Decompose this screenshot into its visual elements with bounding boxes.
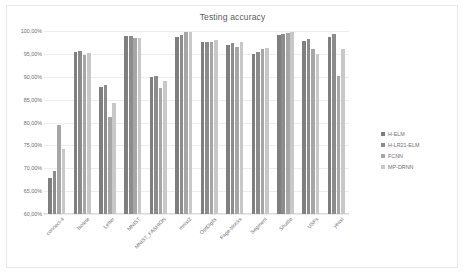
- bar: [341, 49, 345, 214]
- x-axis-category-label: Isolete: [75, 216, 90, 231]
- legend-item[interactable]: MP-DRNN: [381, 161, 457, 172]
- chart-title: Testing accuracy: [0, 12, 465, 22]
- bar-groups: [44, 31, 349, 214]
- bar-group: [146, 31, 171, 214]
- bar: [302, 41, 306, 214]
- bar-group: [69, 31, 94, 214]
- bar-group: [120, 31, 145, 214]
- bar: [231, 43, 235, 214]
- bar-group: [273, 31, 298, 214]
- bar: [62, 149, 66, 214]
- bar: [189, 32, 193, 214]
- bar: [87, 53, 91, 214]
- bar: [133, 38, 137, 214]
- legend: H-ELMH-LR21-ELMFCNNMP-DRNN: [381, 128, 457, 172]
- bar: [53, 171, 57, 214]
- bar: [57, 125, 61, 214]
- x-axis-category-label: Segment: [249, 216, 268, 235]
- bar: [281, 34, 285, 214]
- y-axis-tick-label: 65,00%: [6, 188, 42, 194]
- x-axis-category-label: yeast: [332, 216, 345, 229]
- bar: [316, 54, 320, 214]
- plot-area: [44, 31, 349, 214]
- bar: [311, 49, 315, 214]
- legend-swatch-icon: [381, 154, 385, 158]
- bar: [307, 39, 311, 214]
- x-axis-category-label: mnist2: [177, 216, 192, 231]
- bar: [290, 32, 294, 214]
- bar: [265, 48, 269, 214]
- x-axis-category-label: Shuttle: [278, 216, 294, 232]
- bar: [104, 85, 108, 214]
- bar: [74, 52, 78, 214]
- bar: [337, 76, 341, 214]
- bar: [256, 52, 260, 214]
- bar-group: [222, 31, 247, 214]
- y-axis-tick-labels: 100,00%95,00%90,00%85,00%80,00%75,00%70,…: [6, 31, 42, 214]
- bar: [78, 51, 82, 214]
- bar: [205, 42, 209, 214]
- bar: [83, 55, 87, 214]
- y-axis-tick-label: 80,00%: [6, 120, 42, 126]
- bar: [210, 42, 214, 214]
- bar-group: [298, 31, 323, 214]
- legend-label: MP-DRNN: [388, 164, 413, 170]
- bar: [180, 35, 184, 214]
- bar: [175, 37, 179, 214]
- bar: [277, 35, 281, 214]
- bar: [184, 32, 188, 214]
- x-axis-category-label: OptDigits: [198, 216, 217, 235]
- bar: [138, 38, 142, 214]
- bar-group: [171, 31, 196, 214]
- bar: [252, 54, 256, 214]
- y-axis-tick-label: 100,00%: [6, 28, 42, 34]
- y-axis-tick-label: 60,00%: [6, 211, 42, 217]
- bar: [286, 33, 290, 214]
- legend-label: FCNN: [388, 153, 403, 159]
- bar: [214, 40, 218, 214]
- bar: [226, 45, 230, 214]
- bar: [159, 88, 163, 214]
- y-axis-tick-label: 75,00%: [6, 142, 42, 148]
- bar: [154, 76, 158, 214]
- y-axis-tick-label: 95,00%: [6, 51, 42, 57]
- y-axis-tick-label: 90,00%: [6, 74, 42, 80]
- x-axis-category-label: MNIST: [126, 216, 142, 232]
- bar: [124, 36, 128, 214]
- legend-label: H-ELM: [388, 131, 405, 137]
- bar: [112, 103, 116, 214]
- bar: [150, 77, 154, 214]
- legend-swatch-icon: [381, 165, 385, 169]
- bar-group: [324, 31, 349, 214]
- bar-group: [95, 31, 120, 214]
- bar: [99, 87, 103, 214]
- x-axis-category-label: Page-blocks: [218, 216, 242, 240]
- legend-label: H-LR21-ELM: [388, 142, 419, 148]
- legend-item[interactable]: FCNN: [381, 150, 457, 161]
- bar: [328, 37, 332, 215]
- bar: [235, 47, 239, 214]
- legend-swatch-icon: [381, 143, 385, 147]
- x-axis-category-labels: connect-4IsoleteLetterMNISTMNIST_FASHION…: [44, 214, 349, 274]
- y-axis-tick-label: 70,00%: [6, 165, 42, 171]
- y-axis-tick-label: 85,00%: [6, 97, 42, 103]
- legend-item[interactable]: H-LR21-ELM: [381, 139, 457, 150]
- bar: [163, 81, 167, 214]
- x-axis-category-label: USPs: [305, 216, 319, 230]
- bar: [108, 117, 112, 214]
- legend-item[interactable]: H-ELM: [381, 128, 457, 139]
- bar-group: [197, 31, 222, 214]
- bar: [332, 34, 336, 214]
- x-axis-category-label: connect-4: [45, 216, 65, 236]
- legend-swatch-icon: [381, 132, 385, 136]
- x-axis-category-label: Letter: [102, 216, 116, 230]
- bar-group: [247, 31, 272, 214]
- chart-root: Testing accuracy 100,00%95,00%90,00%85,0…: [0, 0, 465, 277]
- bar-group: [44, 31, 69, 214]
- bar: [201, 42, 205, 214]
- bar: [129, 36, 133, 214]
- bar: [261, 49, 265, 214]
- bar: [240, 42, 244, 214]
- bar: [48, 178, 52, 214]
